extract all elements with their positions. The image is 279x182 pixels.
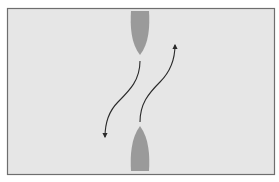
vessels-meeting-diagram	[0, 0, 279, 182]
